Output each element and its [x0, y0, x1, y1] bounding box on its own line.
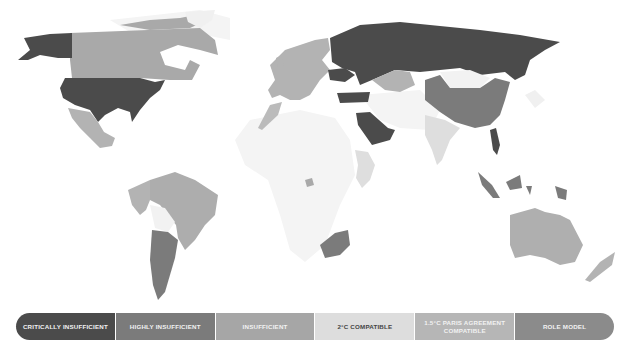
world-map [0, 0, 630, 305]
legend-role-model[interactable]: ROLE MODEL [515, 313, 614, 340]
region-alaska [18, 33, 72, 60]
region-new-zealand [585, 252, 615, 282]
region-turkey [337, 92, 370, 103]
legend-2c-compatible[interactable]: 2°C COMPATIBLE [315, 313, 414, 340]
legend-label: CRITICALLY INSUFFICIENT [23, 323, 108, 331]
legend-1-5c-compatible[interactable]: 1.5°C PARIS AGREEMENT COMPATIBLE [415, 313, 514, 340]
region-argentina [150, 230, 178, 300]
legend-label: 2°C COMPATIBLE [337, 323, 392, 331]
region-indonesia [478, 172, 500, 198]
legend-label: INSUFFICIENT [243, 323, 288, 331]
region-india [425, 115, 460, 165]
legend-label: 1.5°C PARIS AGREEMENT COMPATIBLE [419, 319, 510, 335]
legend: CRITICALLY INSUFFICIENT HIGHLY INSUFFICI… [16, 313, 614, 340]
region-colombia-peru [128, 180, 150, 215]
legend-insufficient[interactable]: INSUFFICIENT [216, 313, 315, 340]
region-mexico [68, 108, 115, 148]
region-australia [510, 208, 583, 265]
legend-critically-insufficient[interactable]: CRITICALLY INSUFFICIENT [16, 313, 115, 340]
legend-label: HIGHLY INSUFFICIENT [130, 323, 201, 331]
legend-highly-insufficient[interactable]: HIGHLY INSUFFICIENT [116, 313, 215, 340]
region-vietnam [490, 128, 500, 155]
legend-label: ROLE MODEL [543, 323, 586, 331]
region-europe [268, 38, 330, 100]
region-ethiopia-kenya [355, 150, 375, 188]
